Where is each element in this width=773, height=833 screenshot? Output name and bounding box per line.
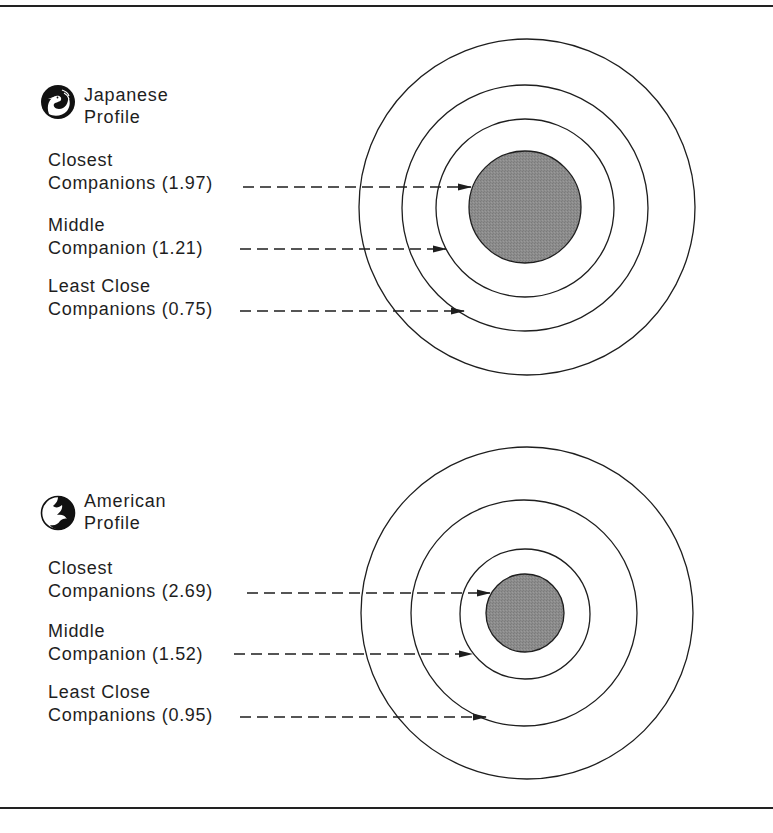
japanese-title-line1: Japanese — [84, 84, 168, 106]
japanese-closest-line1: Closest — [48, 149, 213, 172]
crane-emblem-icon — [40, 84, 76, 120]
japanese-target — [359, 39, 695, 375]
american-least-line1: Least Close — [48, 681, 213, 704]
japanese-least-line1: Least Close — [48, 275, 213, 298]
american-least-line2: Companions (0.95) — [48, 704, 213, 727]
american-middle-line1: Middle — [48, 620, 203, 643]
japanese-closest-core — [469, 151, 581, 263]
japanese-least-line2: Companions (0.75) — [48, 298, 213, 321]
japanese-profile-title: Japanese Profile — [84, 84, 168, 128]
japanese-middle-label: Middle Companion (1.21) — [48, 214, 203, 260]
american-closest-label: Closest Companions (2.69) — [48, 557, 213, 603]
american-title-line2: Profile — [84, 512, 166, 534]
american-closest-core — [486, 574, 564, 652]
american-closest-line1: Closest — [48, 557, 213, 580]
american-middle-label: Middle Companion (1.52) — [48, 620, 203, 666]
american-middle-line2: Companion (1.52) — [48, 643, 203, 666]
eagle-emblem-icon — [40, 495, 76, 531]
american-least-label: Least Close Companions (0.95) — [48, 681, 213, 727]
american-closest-line2: Companions (2.69) — [48, 580, 213, 603]
japanese-middle-line2: Companion (1.21) — [48, 237, 203, 260]
american-target — [361, 447, 693, 779]
american-title-line1: American — [84, 490, 166, 512]
american-profile-title: American Profile — [84, 490, 166, 534]
japanese-closest-label: Closest Companions (1.97) — [48, 149, 213, 195]
japanese-closest-line2: Companions (1.97) — [48, 172, 213, 195]
japanese-middle-line1: Middle — [48, 214, 203, 237]
japanese-least-label: Least Close Companions (0.75) — [48, 275, 213, 321]
japanese-title-line2: Profile — [84, 106, 168, 128]
